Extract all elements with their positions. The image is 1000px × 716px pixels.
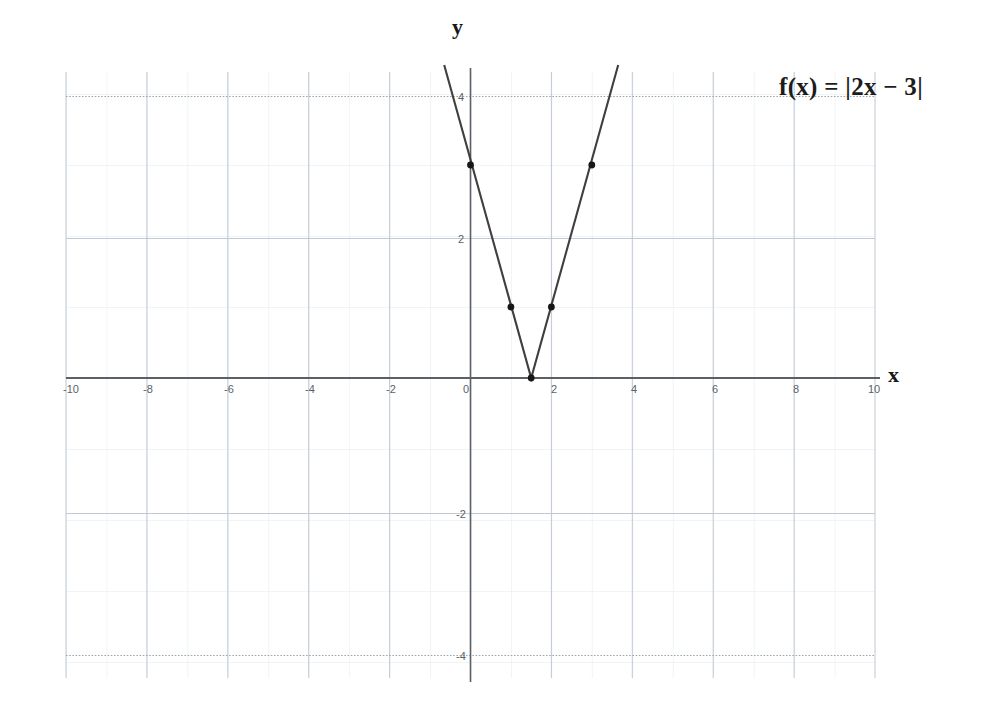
point-marker — [588, 162, 595, 169]
point-marker — [548, 304, 555, 311]
x-tick-label-6: 6 — [712, 384, 718, 395]
x-tick-label-8: 8 — [793, 384, 799, 395]
x-tick-label-4: 4 — [631, 384, 637, 395]
function-expression-label: f(x) = |2x − 3| — [779, 73, 923, 101]
point-marker — [528, 375, 535, 382]
x-tick-label-neg2: -2 — [386, 384, 396, 395]
coordinate-plane — [0, 0, 1000, 716]
x-tick-label-0: 0 — [463, 384, 469, 395]
x-tick-label-2: 2 — [551, 384, 557, 395]
y-tick-label-neg2: -2 — [456, 509, 466, 520]
x-axis-label: x — [888, 364, 899, 386]
y-axis-label: y — [452, 16, 463, 38]
graph-figure: -10 -8 -6 -4 -2 0 2 4 6 8 10 4 2 -2 -4 y… — [0, 0, 1000, 716]
x-tick-label-neg6: -6 — [224, 384, 234, 395]
point-marker — [508, 304, 515, 311]
y-tick-label-neg4: -4 — [456, 651, 466, 662]
y-tick-label-2: 2 — [458, 234, 464, 245]
x-tick-label-10: 10 — [868, 384, 880, 395]
x-tick-label-neg4: -4 — [305, 384, 315, 395]
point-marker — [467, 162, 474, 169]
y-tick-label-4: 4 — [458, 92, 464, 103]
x-tick-label-neg10: -10 — [63, 384, 79, 395]
x-tick-label-neg8: -8 — [143, 384, 153, 395]
